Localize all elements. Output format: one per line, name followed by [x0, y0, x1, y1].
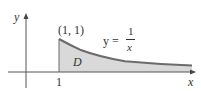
- tick-label-1: 1: [56, 76, 62, 88]
- equation-denominator: x: [127, 42, 132, 53]
- equation-lhs: y =: [103, 35, 119, 47]
- x-axis-label: x: [188, 76, 193, 88]
- point-label: (1, 1): [58, 24, 84, 36]
- equation-numerator: 1: [128, 26, 134, 37]
- diagram-region-under-1-over-x: y x 1 (1, 1) D y = 1 x: [0, 0, 201, 91]
- y-axis-label: y: [14, 11, 19, 23]
- x-axis-arrow-icon: [190, 70, 196, 75]
- y-axis-arrow-icon: [24, 13, 29, 19]
- region-label: D: [73, 56, 82, 68]
- fraction-bar: [126, 39, 135, 40]
- plot-canvas: [0, 0, 201, 91]
